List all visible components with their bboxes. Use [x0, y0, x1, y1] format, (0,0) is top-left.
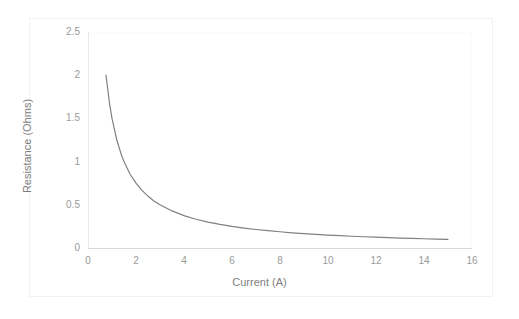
y-tick-label-2-5: 2.5	[54, 27, 80, 37]
x-tick-label-4: 4	[169, 256, 199, 266]
x-tick-label-8: 8	[265, 256, 295, 266]
x-tick-label-12: 12	[361, 256, 391, 266]
chart-container: 2.5 2 1.5 1 0.5 0 0 2 4 6 8 10 12 14 16 …	[0, 0, 519, 319]
y-tick-label-1: 1	[54, 157, 80, 167]
x-axis-title: Current (A)	[0, 276, 519, 288]
y-axis-line	[88, 32, 89, 249]
y-tick-label-0-5: 0.5	[54, 200, 80, 210]
plot-border-top	[88, 32, 472, 33]
y-tick-label-2: 2	[54, 70, 80, 80]
x-tick-label-10: 10	[313, 256, 343, 266]
x-tick-label-6: 6	[217, 256, 247, 266]
y-axis-title: Resistance (Ohms)	[21, 56, 33, 236]
x-tick-label-16: 16	[457, 256, 487, 266]
x-tick-label-2: 2	[121, 256, 151, 266]
plot-area	[88, 32, 472, 248]
plot-border-right	[471, 32, 472, 248]
x-tick-label-0: 0	[73, 256, 103, 266]
y-tick-label-1-5: 1.5	[54, 113, 80, 123]
x-tick-label-14: 14	[409, 256, 439, 266]
y-tick-label-0: 0	[54, 243, 80, 253]
x-axis-line	[88, 248, 472, 249]
